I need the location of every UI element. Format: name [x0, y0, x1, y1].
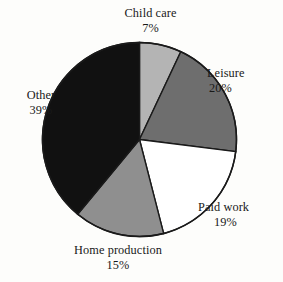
pie-label-paid-work: Paid work 19% [198, 200, 249, 229]
pie-label-leisure-name: Leisure [207, 66, 245, 81]
pie-label-other-name: Other [12, 88, 70, 103]
pie-chart-graphic [0, 0, 283, 282]
pie-label-leisure: Leisure 20% [207, 66, 245, 95]
pie-label-child-care-value: 7% [18, 21, 283, 36]
pie-chart: Child care 7% Leisure 20% Paid work 19% … [0, 0, 283, 282]
pie-label-home-production-name: Home production [52, 243, 184, 258]
pie-label-home-production: Home production 15% [52, 243, 184, 272]
pie-label-leisure-value: 20% [209, 81, 245, 96]
pie-label-child-care-name: Child care [18, 6, 283, 21]
pie-label-other-value: 39% [12, 103, 70, 118]
pie-label-other: Other 39% [12, 88, 70, 117]
pie-label-paid-work-value: 19% [214, 215, 249, 230]
pie-label-home-production-value: 15% [52, 258, 184, 273]
pie-label-paid-work-name: Paid work [198, 200, 249, 215]
pie-label-child-care: Child care 7% [0, 6, 283, 35]
